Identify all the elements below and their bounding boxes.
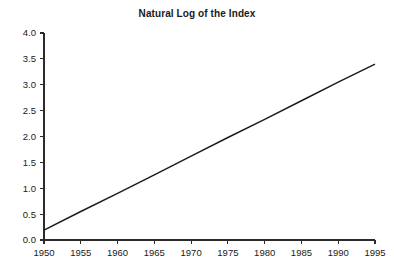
x-tick-label: 1995 — [364, 247, 385, 258]
y-tick-label: 2.0 — [23, 131, 36, 142]
line-chart-plot: 0.00.51.01.52.02.53.03.54.0 195019551960… — [0, 0, 394, 276]
x-tick-label: 1990 — [328, 247, 349, 258]
x-tick-label: 1965 — [144, 247, 165, 258]
x-tick-label: 1955 — [70, 247, 91, 258]
data-series-line — [44, 64, 375, 230]
y-tick-label: 0.5 — [23, 209, 36, 220]
x-tick-label: 1975 — [217, 247, 238, 258]
x-axis-tick-labels: 1950195519601965197019751980198519901995 — [33, 247, 385, 258]
y-tick-label: 3.5 — [23, 53, 36, 64]
y-axis-tick-labels: 0.00.51.01.52.02.53.03.54.0 — [23, 27, 36, 245]
x-tick-label: 1950 — [33, 247, 54, 258]
y-tick-label: 3.0 — [23, 79, 36, 90]
x-tick-label: 1960 — [107, 247, 128, 258]
x-tick-label: 1970 — [181, 247, 202, 258]
chart-figure: Natural Log of the Index 0.00.51.01.52.0… — [0, 0, 394, 276]
y-tick-label: 1.5 — [23, 157, 36, 168]
y-tick-label: 0.0 — [23, 234, 36, 245]
x-tick-label: 1980 — [254, 247, 275, 258]
y-tick-label: 1.0 — [23, 183, 36, 194]
y-tick-label: 2.5 — [23, 105, 36, 116]
x-tick-label: 1985 — [291, 247, 312, 258]
y-tick-label: 4.0 — [23, 27, 36, 38]
